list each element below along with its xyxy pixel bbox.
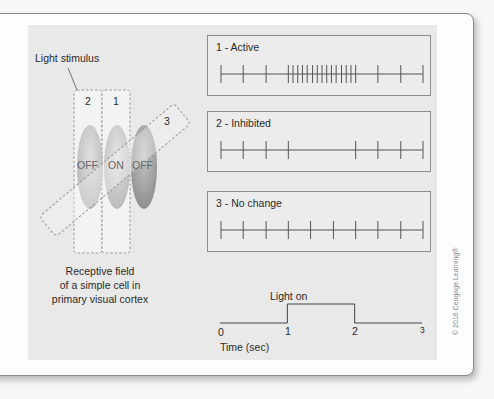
tick-2: 2 [352,325,358,337]
tick-3: 3 [420,325,425,335]
time-axis-label: Time (sec) [220,341,269,353]
copyright-notice: © 2016 Cengage Learning® [452,248,459,335]
tick-1: 1 [285,325,291,337]
tick-0: 0 [218,326,224,338]
light-timeline [0,0,494,399]
light-on-label: Light on [270,290,307,302]
